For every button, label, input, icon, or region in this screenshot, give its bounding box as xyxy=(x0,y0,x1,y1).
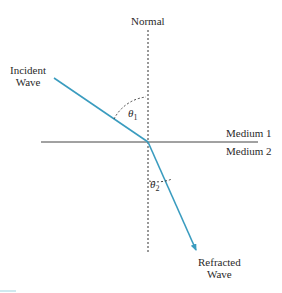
incident-wave-label: Incident Wave xyxy=(10,64,46,88)
refracted-label-line1: Refracted xyxy=(198,256,241,268)
refraction-diagram: Normal Incident Wave θ1 Medium 1 Medium … xyxy=(0,0,282,293)
corner-mark xyxy=(0,290,16,292)
theta2-subscript: 2 xyxy=(155,184,159,193)
refracted-ray xyxy=(148,142,196,250)
theta2-label: θ2 xyxy=(150,178,159,193)
refracted-wave-label: Refracted Wave xyxy=(198,256,241,280)
theta1-label: θ1 xyxy=(128,107,137,122)
medium1-label: Medium 1 xyxy=(226,127,272,139)
theta1-subscript: 1 xyxy=(133,113,137,122)
refracted-label-line2: Wave xyxy=(198,268,241,280)
medium2-label: Medium 2 xyxy=(226,145,272,157)
incident-label-line2: Wave xyxy=(10,76,46,88)
incident-label-line1: Incident xyxy=(10,64,46,76)
normal-label: Normal xyxy=(131,15,165,27)
